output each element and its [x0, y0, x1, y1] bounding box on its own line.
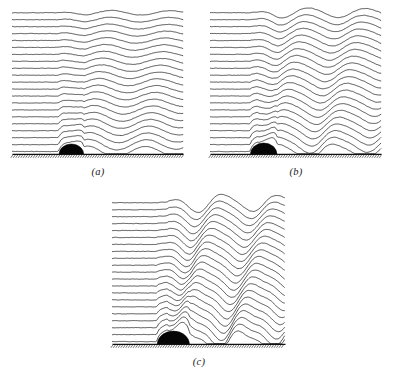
panel-c: [108, 198, 290, 352]
streamline: [210, 83, 380, 96]
streamline: [210, 89, 380, 103]
streamline: [210, 35, 380, 46]
streamline: [12, 71, 182, 78]
streamline: [12, 124, 182, 135]
streamline: [12, 44, 182, 50]
streamline: [12, 24, 182, 29]
streamline: [210, 76, 380, 89]
streamline: [210, 55, 380, 67]
panel-b-obstacle: [250, 143, 277, 154]
streamline: [12, 58, 182, 64]
streamline: [112, 312, 284, 341]
panel-a-obstacle: [59, 144, 84, 154]
figure-root: (a)(b)(c): [0, 0, 396, 377]
streamline: [210, 42, 380, 53]
streamline: [210, 127, 380, 146]
streamline: [12, 31, 182, 37]
streamline: [210, 28, 380, 39]
streamline: [210, 138, 380, 154]
streamline: [12, 38, 182, 44]
panel-c-streamline-field: [108, 198, 290, 352]
streamline: [12, 51, 182, 57]
panel-a-streamlines: [12, 10, 182, 153]
streamline: [112, 215, 284, 234]
streamline: [12, 10, 182, 15]
panel-a-ground-hatching: [11, 155, 184, 158]
panel-b: [206, 8, 386, 162]
streamline: [112, 301, 284, 326]
panel-b-streamline-field: [206, 8, 386, 162]
panel-a-label: (a): [8, 166, 188, 177]
panel-a: [8, 8, 188, 162]
panel-c-label: (c): [108, 356, 290, 367]
panel-b-label: (b): [206, 166, 386, 177]
panel-a-streamline-field: [8, 8, 188, 162]
streamline: [12, 130, 182, 143]
streamline: [112, 307, 284, 334]
panel-b-streamlines: [210, 8, 380, 154]
streamline: [12, 65, 182, 72]
panel-c-ground-hatching: [111, 345, 284, 348]
streamline: [210, 96, 380, 110]
streamline: [12, 92, 182, 100]
streamline: [210, 62, 380, 74]
streamline: [12, 17, 182, 22]
streamline: [210, 110, 380, 125]
streamline: [210, 49, 380, 61]
panel-c-streamlines: [112, 194, 284, 343]
panel-c-obstacle: [157, 331, 189, 344]
streamline: [210, 133, 380, 154]
streamline: [210, 69, 380, 82]
streamline: [210, 122, 380, 139]
panel-b-ground-hatching: [209, 155, 382, 158]
